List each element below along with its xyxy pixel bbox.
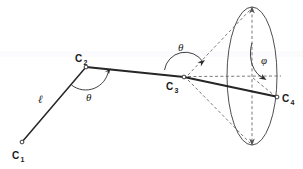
cone-axis-dashed bbox=[188, 76, 281, 77]
vertex-label-c2-text: C bbox=[75, 53, 82, 64]
cone-upper-generator-dashed bbox=[188, 10, 250, 75]
angle-arc-theta-c3-arrowhead bbox=[198, 60, 206, 67]
vertex-label-c4: C 4 bbox=[282, 93, 295, 106]
vertex-label-c1-text: C bbox=[12, 150, 19, 161]
bond-length-label: ℓ bbox=[38, 93, 43, 105]
angle-arc-theta-c2 bbox=[72, 71, 109, 90]
vertex-label-c1: C 1 bbox=[12, 150, 25, 163]
bond-c3-c4 bbox=[184, 77, 276, 97]
vertex-label-c3-text: C bbox=[166, 81, 173, 92]
bond-c1-c2 bbox=[22, 67, 86, 142]
vertex-label-c2-subscript: 2 bbox=[84, 59, 88, 66]
dihedral-angle-label: φ bbox=[261, 54, 267, 66]
bond-angle-label-c2: θ bbox=[86, 91, 92, 103]
background-band bbox=[0, 51, 303, 57]
bond-c2-c3 bbox=[86, 67, 184, 77]
bond-angle-label-c3: θ bbox=[178, 41, 184, 53]
vertex-label-c4-subscript: 4 bbox=[291, 99, 295, 106]
angle-arc-phi-arrowhead bbox=[259, 74, 267, 80]
molecular-geometry-figure: Internal coordinates diagram: bond lengt… bbox=[0, 0, 303, 169]
vertex-marker-c1 bbox=[20, 140, 24, 144]
vertex-marker-c4 bbox=[275, 95, 279, 99]
vertex-label-c3-subscript: 3 bbox=[175, 87, 179, 94]
vertex-label-c3: C 3 bbox=[166, 81, 179, 94]
vertex-label-c4-text: C bbox=[282, 93, 289, 104]
vertex-label-c1-subscript: 1 bbox=[21, 156, 25, 163]
vertex-marker-c3 bbox=[182, 75, 186, 79]
